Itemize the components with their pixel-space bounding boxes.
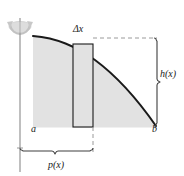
curved-rotation-arrow-icon [7, 21, 33, 34]
left-bound-label: a [31, 124, 36, 134]
shaded-region [33, 36, 156, 127]
representative-strip [73, 44, 93, 127]
shell-method-figure: Δx h(x) p(x) a b [0, 0, 184, 176]
height-brace [154, 38, 160, 126]
radius-brace [20, 148, 93, 154]
radius-label: p(x) [48, 160, 64, 170]
right-bound-label: b [152, 124, 157, 134]
delta-x-label: Δx [73, 24, 83, 34]
diagram-canvas [0, 0, 184, 176]
height-label: h(x) [160, 69, 176, 79]
